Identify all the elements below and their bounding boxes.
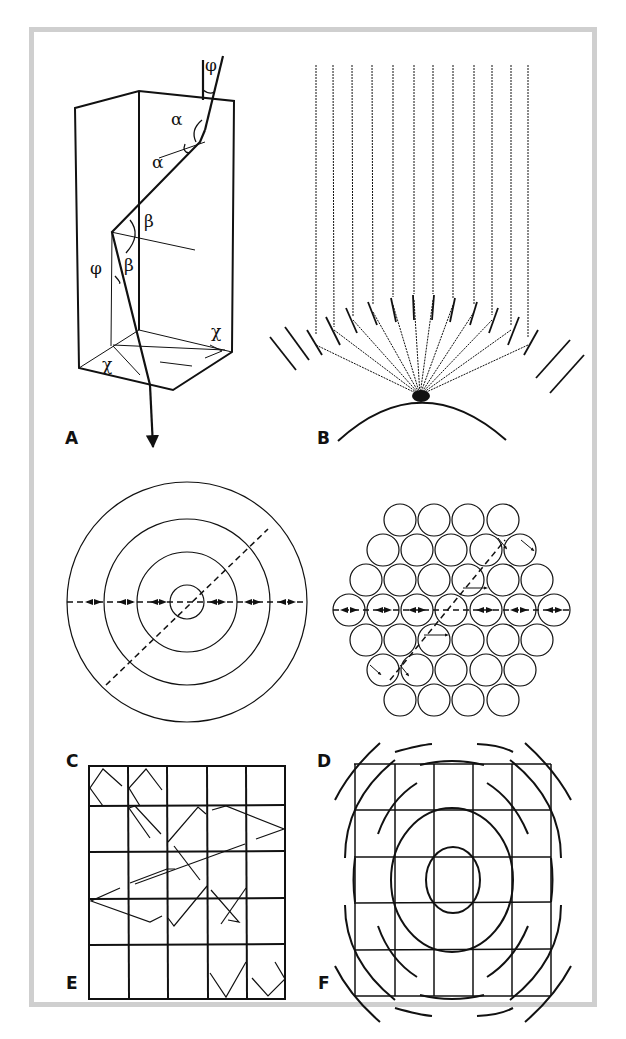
panel-label-d: D [317, 751, 331, 771]
angle-beta-2: β [124, 255, 134, 275]
angle-chi-1: χ [102, 354, 112, 374]
figure: φ α α β β φ χ χ A [0, 0, 626, 1039]
panel-e: E [66, 766, 285, 999]
figure-canvas: φ α α β β φ χ χ A [0, 0, 626, 1039]
panel-c: C [66, 482, 307, 771]
panel-a: φ α α β β φ χ χ A [65, 55, 234, 448]
angle-beta-1: β [144, 211, 154, 231]
panel-label-c: C [66, 751, 78, 771]
angle-phi-top: φ [205, 55, 217, 75]
panel-b: B [270, 65, 584, 448]
angle-chi-2: χ [211, 321, 221, 341]
angle-alpha-1: α [171, 109, 183, 129]
panel-d: D [317, 504, 570, 771]
angle-phi-bottom: φ [90, 258, 102, 278]
angle-alpha-2: α [152, 152, 164, 172]
panel-label-b: B [317, 428, 330, 448]
panel-label-e: E [66, 973, 78, 993]
panel-f: F [318, 743, 571, 1022]
panel-label-a: A [65, 428, 79, 448]
panel-label-f: F [318, 973, 330, 993]
